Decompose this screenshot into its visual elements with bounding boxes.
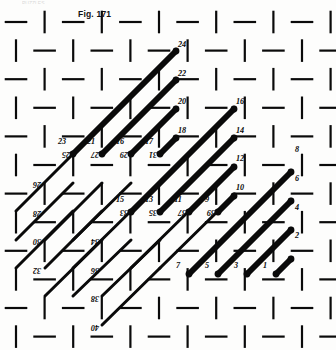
lattice-node [288, 169, 295, 176]
node-label-inverted: 29 [120, 150, 129, 159]
node-label-inverted: 36 [90, 266, 100, 275]
node-label: 16 [236, 97, 245, 106]
node-label: 1 [263, 261, 267, 270]
lattice-node [215, 271, 222, 278]
node-label: 8 [295, 145, 299, 154]
node-label-inverted: 30 [33, 237, 42, 246]
lattice-node [173, 106, 180, 113]
lattice-node [173, 135, 180, 142]
lattice-node [231, 106, 238, 113]
node-label: 16 [116, 137, 125, 146]
node-label: 7 [176, 261, 181, 270]
node-label-inverted: 26 [32, 180, 42, 189]
node-label: 18 [178, 126, 186, 135]
node-label: 6 [295, 174, 300, 183]
node-label-inverted: 38 [91, 294, 100, 303]
node-label: 23 [57, 137, 66, 146]
node-label-inverted: 27 [90, 150, 100, 159]
node-label-inverted: 33 [120, 208, 129, 217]
node-label-inverted: 40 [91, 323, 100, 332]
node-label: 22 [177, 69, 186, 78]
node-label: 4 [294, 203, 299, 212]
node-label: 10 [236, 183, 244, 192]
lattice-node [273, 271, 280, 278]
node-label-inverted: 31 [149, 150, 158, 159]
chord-thin [160, 211, 218, 268]
lattice-node [288, 198, 295, 205]
node-label-inverted: 35 [149, 208, 158, 217]
lattice-diagram-canvas: 2422201816141210864223211617151311975312… [0, 0, 336, 350]
node-label: 5 [205, 261, 209, 270]
lattice-node [244, 271, 251, 278]
node-label: 20 [177, 97, 186, 106]
lattice-node [231, 164, 238, 171]
thick-chords-layer [73, 51, 291, 274]
node-label: 24 [177, 40, 186, 49]
node-label: 14 [236, 126, 244, 135]
lattice-node [186, 271, 193, 278]
lattice-node [231, 135, 238, 142]
lattice-node [288, 227, 295, 234]
node-label-inverted: 32 [33, 266, 42, 275]
node-label: 2 [294, 231, 299, 240]
node-label-inverted: 28 [33, 209, 42, 218]
node-label: 9 [205, 195, 209, 204]
lattice-node [231, 193, 238, 200]
node-label-inverted: 34 [91, 237, 100, 246]
node-label: 17 [145, 137, 154, 146]
lattice-node [288, 256, 295, 263]
node-label: 15 [116, 195, 124, 204]
node-label-inverted: 25 [62, 150, 71, 159]
node-label: 12 [236, 154, 244, 163]
node-label: 13 [145, 195, 153, 204]
node-label: 21 [86, 137, 95, 146]
node-label-inverted: 39 [207, 208, 216, 217]
figure-container: PUZZLES Fig. 171 24222018161412108642232… [0, 0, 336, 350]
node-label: 3 [233, 261, 238, 270]
node-label: 11 [174, 195, 182, 204]
node-label-inverted: 37 [177, 208, 187, 217]
